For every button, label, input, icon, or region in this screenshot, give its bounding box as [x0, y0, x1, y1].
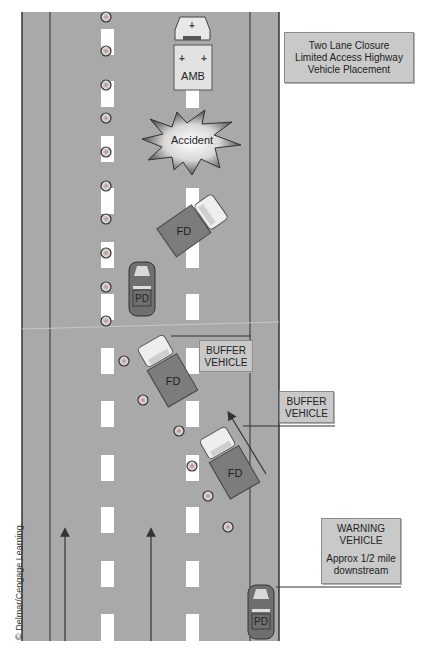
title-line-2: Limited Access Highway — [285, 52, 413, 64]
cone-icon — [101, 282, 111, 292]
cone-icon — [101, 248, 111, 258]
cone-icon — [101, 316, 111, 326]
buffer-vehicle-label-1: BUFFER VEHICLE — [199, 340, 253, 372]
fd-label: FD — [166, 375, 181, 387]
cone-icon — [223, 522, 233, 532]
police-car-icon: PD — [248, 585, 274, 639]
fd-label: FD — [177, 225, 192, 237]
title-line-1: Two Lane Closure — [285, 40, 413, 52]
cone-icon — [101, 147, 111, 157]
accident-label: Accident — [171, 134, 213, 146]
warning-vehicle-label: WARNING VEHICLE Approx 1/2 mile downstre… — [321, 518, 401, 584]
cone-icon — [101, 113, 111, 123]
cone-icon — [119, 356, 129, 366]
cone-icon — [101, 12, 111, 22]
ambulance-icon: + + + AMB — [174, 17, 212, 90]
police-car-icon: PD — [129, 262, 155, 316]
fd-label: FD — [228, 467, 243, 479]
cone-icon — [138, 395, 148, 405]
cone-icon — [203, 491, 213, 501]
diagram-title-box: Two Lane Closure Limited Access Highway … — [284, 32, 414, 83]
ambulance-label: AMB — [181, 70, 205, 82]
title-line-3: Vehicle Placement — [285, 64, 413, 76]
cone-icon — [101, 46, 111, 56]
pd-label: PD — [135, 293, 149, 304]
copyright-credit: © Delmar/Cengage Learning. — [14, 523, 24, 640]
cone-icon — [101, 80, 111, 90]
cone-icon — [101, 214, 111, 224]
cone-icon — [101, 181, 111, 191]
cone-icon — [174, 426, 184, 436]
cone-icon — [187, 461, 197, 471]
svg-text:+: + — [179, 53, 185, 64]
pd-label: PD — [254, 616, 268, 627]
buffer-vehicle-label-2: BUFFER VEHICLE — [279, 391, 334, 423]
svg-text:+: + — [201, 53, 207, 64]
svg-text:+: + — [189, 20, 195, 31]
